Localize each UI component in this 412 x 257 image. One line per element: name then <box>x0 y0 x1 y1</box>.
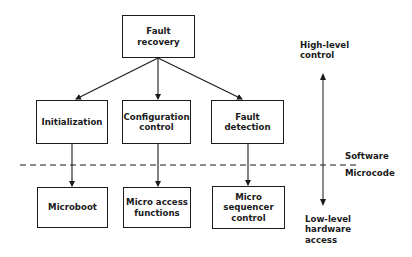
label-software: Software <box>345 151 389 161</box>
label-high-level-control: High-level control <box>300 40 349 61</box>
node-initialization: Initialization <box>36 100 108 144</box>
node-fault-detection: Fault detection <box>211 100 284 144</box>
node-microboot: Microboot <box>37 187 108 228</box>
node-configuration-control: Configuration control <box>122 100 191 144</box>
node-fault-recovery: Fault recovery <box>122 15 195 58</box>
node-micro-sequencer-control: Micro sequencer control <box>212 186 285 229</box>
arrow-recovery-to-fault-detection <box>158 58 242 99</box>
label-low-level-hardware-access: Low-level hardware access <box>305 214 351 245</box>
node-micro-access-functions: Micro access functions <box>123 187 191 228</box>
diagram-canvas: Fault recovery Initialization Configurat… <box>0 0 412 257</box>
scale-arrowhead-up <box>320 73 326 80</box>
scale-arrowhead-down <box>320 199 326 206</box>
label-microcode: Microcode <box>345 168 395 178</box>
arrow-recovery-to-initialization <box>76 58 158 99</box>
